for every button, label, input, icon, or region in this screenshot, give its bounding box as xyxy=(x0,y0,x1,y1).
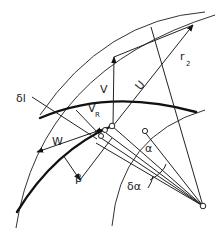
radial-line-2 xyxy=(112,126,203,206)
label-r: r xyxy=(180,50,185,63)
radial-line-long xyxy=(151,27,203,206)
label-vr-sub: R xyxy=(95,111,100,119)
node-3 xyxy=(142,128,147,133)
inner-radius-arc xyxy=(112,110,205,226)
label-delta-l: δl xyxy=(16,92,26,105)
node-2 xyxy=(99,134,104,139)
label-r-sub: 2 xyxy=(186,60,190,68)
delta-alpha-arc xyxy=(148,176,153,188)
node-hub-center xyxy=(200,203,206,209)
label-beta: β xyxy=(75,172,82,185)
beta-ref-line xyxy=(80,138,112,180)
label-w: W xyxy=(52,135,63,148)
v-vector xyxy=(113,57,114,126)
label-u: U xyxy=(133,78,148,93)
label-v: V xyxy=(100,83,108,96)
blade-curve-upper xyxy=(40,101,196,118)
node-blade-point xyxy=(109,123,115,129)
label-alpha: α xyxy=(145,142,152,155)
velocity-triangle-diagram: V U r 2 W V R δl β α δα xyxy=(0,0,223,230)
label-delta-alpha: δα xyxy=(127,180,141,193)
node-1 xyxy=(103,128,108,133)
